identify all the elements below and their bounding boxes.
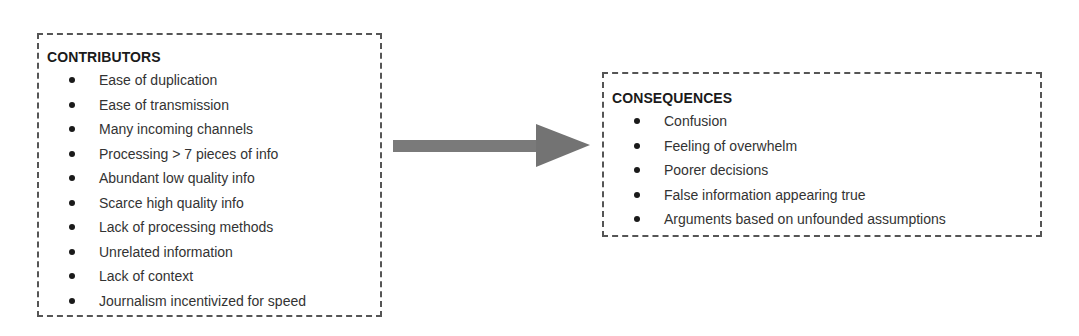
- bullet-icon: [69, 273, 75, 279]
- consequences-title: CONSEQUENCES: [612, 90, 1040, 106]
- bullet-icon: [69, 175, 75, 181]
- list-item: Lack of context: [47, 264, 380, 289]
- bullet-icon: [69, 102, 75, 108]
- list-item: Journalism incentivized for speed: [47, 289, 380, 314]
- list-item: Arguments based on unfounded assumptions: [612, 207, 1040, 232]
- list-item-label: Scarce high quality info: [99, 195, 244, 211]
- list-item-label: Unrelated information: [99, 244, 233, 260]
- list-item-label: Abundant low quality info: [99, 170, 255, 186]
- list-item-label: Journalism incentivized for speed: [99, 293, 306, 309]
- bullet-icon: [634, 143, 640, 149]
- contributors-box: CONTRIBUTORS Ease of duplication Ease of…: [37, 33, 382, 317]
- consequences-list: Confusion Feeling of overwhelm Poorer de…: [612, 109, 1040, 232]
- list-item: Abundant low quality info: [47, 166, 380, 191]
- contributors-title: CONTRIBUTORS: [47, 49, 380, 65]
- list-item: Unrelated information: [47, 240, 380, 265]
- list-item: Processing > 7 pieces of info: [47, 142, 380, 167]
- list-item: False information appearing true: [612, 183, 1040, 208]
- right-arrow-icon: [393, 122, 593, 172]
- list-item: Poorer decisions: [612, 158, 1040, 183]
- bullet-icon: [69, 249, 75, 255]
- bullet-icon: [69, 126, 75, 132]
- list-item-label: Ease of duplication: [99, 72, 217, 88]
- list-item: Feeling of overwhelm: [612, 134, 1040, 159]
- consequences-box: CONSEQUENCES Confusion Feeling of overwh…: [602, 72, 1042, 237]
- list-item: Ease of transmission: [47, 93, 380, 118]
- list-item: Confusion: [612, 109, 1040, 134]
- list-item-label: Ease of transmission: [99, 97, 229, 113]
- bullet-icon: [634, 216, 640, 222]
- list-item-label: Many incoming channels: [99, 121, 253, 137]
- bullet-icon: [69, 151, 75, 157]
- bullet-icon: [69, 224, 75, 230]
- list-item: Lack of processing methods: [47, 215, 380, 240]
- bullet-icon: [69, 77, 75, 83]
- bullet-icon: [69, 298, 75, 304]
- list-item-label: Processing > 7 pieces of info: [99, 146, 278, 162]
- list-item-label: Feeling of overwhelm: [664, 138, 797, 154]
- list-item-label: False information appearing true: [664, 187, 866, 203]
- list-item: Scarce high quality info: [47, 191, 380, 216]
- list-item: Ease of duplication: [47, 68, 380, 93]
- list-item-label: Lack of processing methods: [99, 219, 273, 235]
- list-item-label: Poorer decisions: [664, 162, 768, 178]
- list-item: Many incoming channels: [47, 117, 380, 142]
- bullet-icon: [634, 167, 640, 173]
- list-item-label: Arguments based on unfounded assumptions: [664, 211, 946, 227]
- list-item-label: Lack of context: [99, 268, 193, 284]
- bullet-icon: [69, 200, 75, 206]
- list-item-label: Confusion: [664, 113, 727, 129]
- contributors-list: Ease of duplication Ease of transmission…: [47, 68, 380, 313]
- bullet-icon: [634, 192, 640, 198]
- bullet-icon: [634, 118, 640, 124]
